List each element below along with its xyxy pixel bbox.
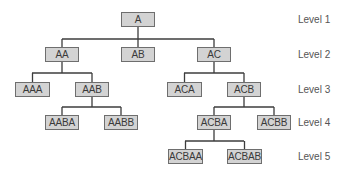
- node-acba: ACBA: [197, 115, 231, 130]
- node-aabb: AABB: [104, 115, 138, 130]
- node-aab: AAB: [75, 82, 109, 97]
- node-aaa: AAA: [15, 82, 50, 97]
- level-label-2: Level 2: [298, 49, 330, 61]
- node-acbaa: ACBAA: [168, 149, 203, 164]
- node-ab: AB: [121, 47, 155, 62]
- node-aca: ACA: [167, 82, 202, 97]
- node-aa: AA: [45, 47, 79, 62]
- tree-diagram: A AA AB AC AAA AAB ACA ACB AABA AABB ACB…: [0, 0, 340, 176]
- node-aaba: AABA: [45, 115, 79, 130]
- node-acb: ACB: [227, 82, 261, 97]
- level-label-3: Level 3: [298, 84, 330, 96]
- node-ac: AC: [197, 47, 231, 62]
- node-a: A: [121, 12, 155, 27]
- level-label-5: Level 5: [298, 151, 330, 163]
- node-acbab: ACBAB: [227, 149, 262, 164]
- node-acbb: ACBB: [257, 115, 291, 130]
- level-label-4: Level 4: [298, 117, 330, 129]
- level-label-1: Level 1: [298, 14, 330, 26]
